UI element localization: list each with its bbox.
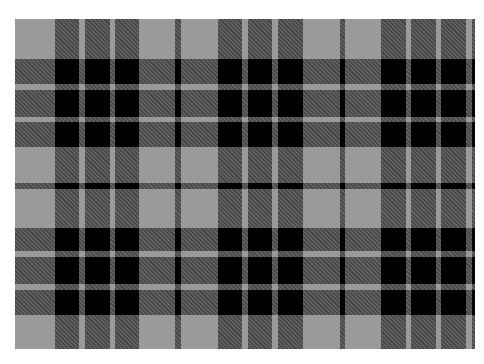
horizontal-dark-band	[15, 290, 475, 315]
horizontal-dark-band	[15, 183, 475, 189]
horizontal-dark-band	[15, 90, 475, 117]
horizontal-dark-band	[15, 228, 475, 251]
horizontal-dark-band	[15, 257, 475, 284]
tartan-pattern	[15, 19, 475, 349]
horizontal-dark-band	[15, 122, 475, 147]
horizontal-dark-band	[15, 59, 475, 84]
